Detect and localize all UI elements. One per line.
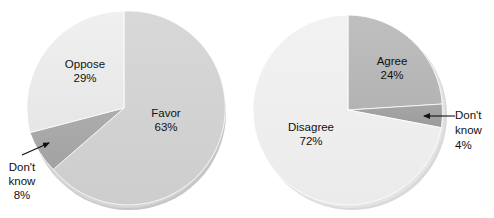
right-pie-group: Agree 24% Disagree 72% Don't know 4% bbox=[253, 15, 483, 210]
left-oppose-label: Oppose bbox=[65, 58, 105, 70]
right-dontknow-line2: know bbox=[455, 124, 483, 136]
left-dontknow-pct: 8% bbox=[14, 189, 31, 201]
right-disagree-pct: 72% bbox=[299, 135, 322, 147]
left-favor-label: Favor bbox=[151, 107, 181, 119]
pie-charts-canvas: Oppose 29% Favor 63% Don't know 8% Agree… bbox=[0, 0, 494, 218]
right-agree-label: Agree bbox=[377, 55, 408, 67]
right-dontknow-pct: 4% bbox=[455, 139, 472, 151]
two-pie-chart-figure: Oppose 29% Favor 63% Don't know 8% Agree… bbox=[0, 0, 494, 218]
left-oppose-pct: 29% bbox=[73, 72, 96, 84]
right-dontknow-line1: Don't bbox=[455, 109, 482, 121]
left-favor-pct: 63% bbox=[154, 121, 177, 133]
left-dontknow-line1: Don't bbox=[9, 161, 36, 173]
right-agree-pct: 24% bbox=[380, 69, 403, 81]
left-dontknow-line2: know bbox=[9, 175, 37, 187]
left-pie-group: Oppose 29% Favor 63% Don't know 8% bbox=[9, 11, 226, 210]
right-disagree-label: Disagree bbox=[288, 121, 334, 133]
